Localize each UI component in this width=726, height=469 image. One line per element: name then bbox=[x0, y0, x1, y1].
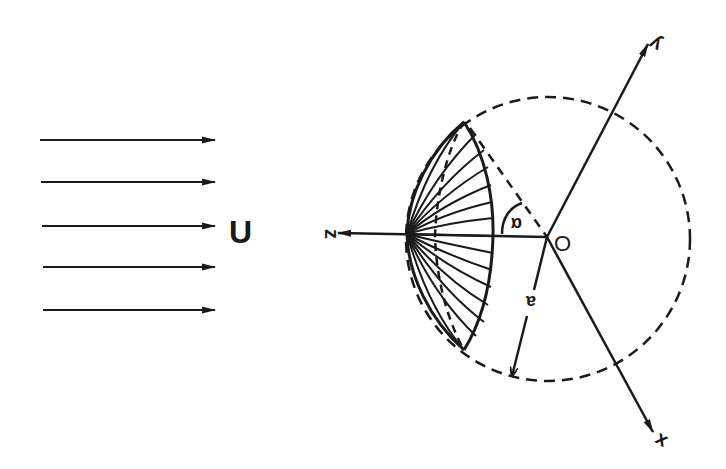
flow-velocity-label: U bbox=[229, 214, 252, 250]
cap-edge-to-center-line bbox=[470, 128, 547, 237]
radius-line-lower bbox=[512, 316, 527, 376]
uniform-flow-arrows bbox=[40, 140, 215, 310]
x-axis bbox=[547, 237, 653, 432]
origin-label: O bbox=[554, 231, 571, 256]
radius-label: a bbox=[525, 292, 536, 312]
z-axis-label: z bbox=[321, 229, 343, 239]
spherical-cap-flow-diagram: U z y bbox=[0, 0, 726, 469]
y-axis bbox=[547, 44, 648, 237]
radius-line-upper bbox=[534, 237, 547, 290]
half-angle-label: α bbox=[511, 214, 522, 234]
x-axis-label: x bbox=[652, 426, 673, 451]
